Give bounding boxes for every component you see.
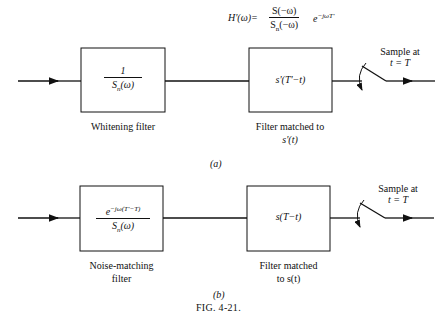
exp-power: −jω(T'−T): [110, 205, 140, 213]
matched-filter-b-content: s(T−t): [247, 211, 330, 222]
formula-exponential: e−jωT': [313, 12, 334, 24]
formula-lhs: H'(ω)=: [228, 12, 258, 23]
sampler-a-label-1: Sample at: [370, 46, 430, 57]
box1-numerator: e−jω(T'−T): [96, 205, 150, 219]
den-arg: (ω): [120, 79, 134, 90]
noise-matching-filter-label-1: Noise-matching: [80, 260, 163, 271]
noise-matching-filter-label-2: filter: [80, 273, 163, 284]
matched-filter-a-label-1: Filter matched to: [240, 121, 340, 132]
formula-fraction: S(−ω) Sn(−ω): [269, 5, 299, 33]
sampler-a-label-2: t = T: [370, 57, 430, 68]
whitening-filter-label: Whitening filter: [81, 121, 165, 132]
matched-filter-b-label-2: to s(t): [247, 273, 330, 284]
sampler-b-label-1: Sample at: [368, 183, 428, 194]
sampler-b-label-2: t = T: [368, 194, 428, 205]
caption-b: (b): [213, 289, 225, 300]
formula-denominator: Sn(−ω): [269, 18, 299, 33]
den-arg: (ω): [120, 220, 134, 231]
caption-a: (a): [210, 158, 222, 169]
den-arg: (−ω): [279, 19, 298, 30]
matched-filter-a-label-2: s'(t): [240, 134, 340, 145]
matched-filter-a-content: s'(T'−t): [249, 74, 332, 85]
box1-numerator: 1: [104, 65, 142, 78]
matched-filter-b-label-1: Filter matched: [247, 260, 330, 271]
whitening-filter-transfer: 1 Sn(ω): [104, 65, 142, 93]
exp-power: −jωT': [317, 12, 334, 20]
formula-numerator: S(−ω): [269, 5, 299, 18]
box1-denominator: Sn(ω): [104, 78, 142, 93]
figure-caption: FIG. 4-21.: [196, 302, 241, 313]
noise-matching-filter-transfer: e−jω(T'−T) Sn(ω): [96, 205, 150, 234]
box1-denominator: Sn(ω): [96, 219, 150, 234]
